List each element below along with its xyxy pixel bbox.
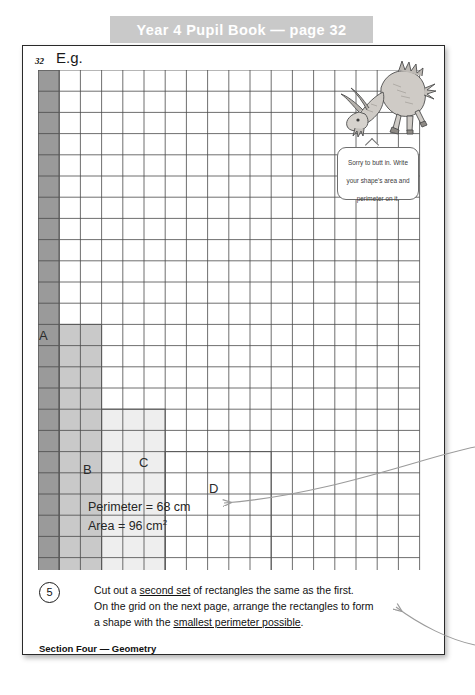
question-line-1-underlined: second set	[140, 584, 191, 596]
book-page-sheet: 32 E.g.	[22, 45, 445, 655]
question-line-1-part-b: of rectangles the same as the first.	[190, 584, 353, 596]
page-number-label: 32	[35, 56, 44, 66]
area-unit-superscript: 2	[163, 518, 167, 527]
rectangle-label-d: D	[209, 481, 218, 496]
rectangle-label-c: C	[139, 455, 148, 470]
question-line-1-part-a: Cut out a	[94, 584, 140, 596]
question-line-3-part-b: .	[301, 616, 304, 628]
speech-bubble-text: Sorry to butt in. Write your shape's are…	[346, 159, 409, 202]
question-line-3-underlined: smallest perimeter possible	[173, 616, 300, 628]
perimeter-text: Perimeter = 68 cm	[88, 498, 190, 517]
section-footer-label: Section Four — Geometry	[39, 643, 156, 654]
measurement-annotations: Perimeter = 68 cm Area = 96 cm2	[88, 498, 190, 537]
rectangle-label-b: B	[83, 462, 92, 477]
question-line-3: a shape with the smallest perimeter poss…	[94, 615, 374, 631]
rectangle-label-a: A	[39, 328, 48, 343]
shaded-rectangles	[38, 70, 271, 570]
goat-character-icon	[341, 54, 436, 139]
area-text: Area = 96 cm2	[88, 517, 190, 537]
question-line-2: On the grid on the next page, arrange th…	[94, 599, 374, 615]
rectangle-C	[102, 409, 166, 570]
header-banner-title: Year 4 Pupil Book — page 32	[137, 22, 347, 38]
rectangle-A	[38, 70, 59, 570]
question-line-3-part-a: a shape with the	[94, 616, 173, 628]
question-number-badge: 5	[39, 582, 60, 603]
example-label: E.g.	[56, 49, 83, 66]
question-text: Cut out a second set of rectangles the s…	[94, 583, 374, 631]
speech-bubble: Sorry to butt in. Write your shape's are…	[337, 147, 419, 200]
header-banner: Year 4 Pupil Book — page 32	[110, 16, 373, 43]
question-line-1: Cut out a second set of rectangles the s…	[94, 583, 374, 599]
area-text-value: Area = 96 cm	[88, 520, 163, 534]
